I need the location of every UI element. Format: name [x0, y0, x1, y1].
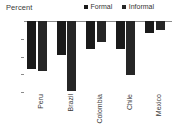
y-tick-mark: [21, 92, 24, 93]
bar-group: [83, 21, 113, 92]
x-tick-label: Chile: [126, 94, 133, 110]
bar-chile-informal: [126, 21, 135, 75]
legend-label-formal: Formal: [91, 3, 113, 10]
bar-colombia-formal: [86, 21, 95, 49]
bar-chart: Percent Formal Informal 0-5-10-15-20 Per…: [0, 0, 176, 137]
bar-peru-formal: [27, 21, 36, 69]
bar-mexico-formal: [145, 21, 154, 33]
x-tick-label: Colombia: [96, 94, 103, 124]
bar-peru-informal: [38, 21, 47, 71]
legend-item-formal: Formal: [84, 3, 112, 10]
legend-swatch-formal: [84, 5, 88, 9]
bar-groups: [24, 21, 172, 92]
legend-label-informal: Informal: [129, 3, 154, 10]
x-tick-label: Peru: [37, 94, 44, 109]
bar-chile-formal: [116, 21, 125, 49]
legend-item-informal: Informal: [122, 3, 154, 10]
plot-area: 0-5-10-15-20: [24, 21, 172, 92]
bar-mexico-informal: [156, 21, 165, 30]
bar-colombia-informal: [97, 21, 106, 42]
x-axis-labels: PeruBrazilColombiaChileMexico: [24, 94, 172, 137]
x-tick-label: Mexico: [155, 94, 162, 116]
y-axis-title: Percent: [6, 3, 33, 12]
bar-brazil-formal: [57, 21, 66, 55]
bar-group: [113, 21, 143, 92]
bar-group: [142, 21, 172, 92]
x-tick-label: Brazil: [67, 94, 74, 112]
legend-swatch-informal: [122, 5, 126, 9]
bar-group: [54, 21, 84, 92]
chart-legend: Formal Informal: [84, 3, 154, 10]
bar-brazil-informal: [67, 21, 76, 91]
bar-group: [24, 21, 54, 92]
